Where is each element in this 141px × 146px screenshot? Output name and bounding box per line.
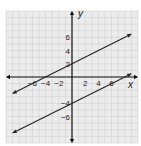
svg-text:4: 4 (96, 79, 101, 88)
coordinate-plane: −6−4−2246642−4−6 y x (0, 0, 141, 146)
x-axis-label: x (127, 79, 134, 90)
y-axis-label: y (77, 8, 84, 19)
svg-text:2: 2 (66, 60, 71, 69)
svg-text:6: 6 (66, 33, 71, 42)
svg-text:−4: −4 (61, 99, 71, 108)
svg-text:−6: −6 (61, 113, 71, 122)
svg-text:4: 4 (66, 47, 71, 56)
svg-text:−6: −6 (28, 79, 38, 88)
svg-text:6: 6 (109, 79, 114, 88)
svg-text:−4: −4 (41, 79, 51, 88)
svg-text:2: 2 (83, 79, 88, 88)
svg-text:−2: −2 (54, 79, 64, 88)
